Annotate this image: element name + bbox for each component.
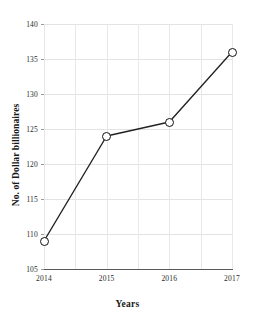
- x-axis-title: Years: [0, 299, 255, 309]
- x-axis-tick-label: 2014: [24, 274, 64, 283]
- line-chart: No. of Dollar billionaires 1051101151201…: [0, 0, 255, 321]
- y-axis-title: No. of Dollar billionaires: [11, 60, 21, 250]
- y-axis-tick-label: 110: [0, 230, 38, 239]
- x-axis-tick-label: 2016: [149, 274, 189, 283]
- y-axis-tick-label: 105: [0, 265, 38, 274]
- gridline-vertical: [232, 24, 233, 269]
- x-axis-tick-label: 2017: [212, 274, 252, 283]
- y-axis-tick-label: 120: [0, 160, 38, 169]
- y-axis-tick: [41, 269, 44, 270]
- y-axis-tick-label: 115: [0, 195, 38, 204]
- y-axis-tick-label: 125: [0, 125, 38, 134]
- data-point-marker: [40, 237, 49, 246]
- y-axis-tick-label: 140: [0, 20, 38, 29]
- plot-area: [44, 24, 232, 269]
- data-point-marker: [102, 132, 111, 141]
- series-line: [44, 24, 232, 269]
- x-axis-tick-label: 2015: [87, 274, 127, 283]
- y-axis-tick-label: 130: [0, 90, 38, 99]
- y-axis-tick-label: 135: [0, 55, 38, 64]
- x-axis-line: [44, 269, 233, 270]
- data-point-marker: [165, 118, 174, 127]
- data-point-marker: [228, 48, 237, 57]
